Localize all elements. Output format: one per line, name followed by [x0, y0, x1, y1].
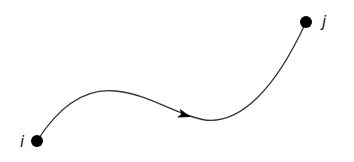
node-j-label: j: [320, 13, 327, 31]
arrowhead-icon: [177, 109, 192, 121]
node-j: [300, 16, 312, 28]
node-i-label: i: [20, 133, 25, 151]
path-diagram: i j: [0, 0, 354, 162]
node-i: [31, 135, 43, 147]
edge-i-to-j: [37, 22, 306, 141]
